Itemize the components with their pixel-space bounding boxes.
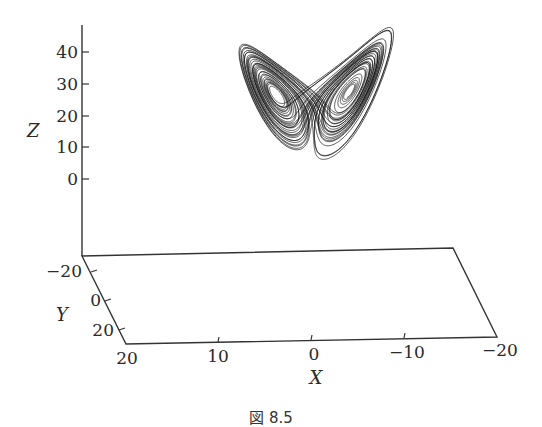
lorenz-attractor-figure: 40 30 20 10 0 Z −20 0 20 Y 20 10 0 −10 −…	[0, 0, 542, 427]
x-tick-label: −20	[482, 340, 518, 360]
y-tick-label: 0	[90, 290, 101, 310]
floor-plane	[82, 248, 497, 344]
x-axis-label: X	[308, 367, 324, 388]
lorenz-trajectory	[239, 28, 394, 160]
z-axis-tick-labels: 40 30 20 10 0	[56, 42, 78, 189]
y-axis-label: Y	[56, 304, 70, 325]
z-tick-label: 20	[56, 106, 78, 126]
x-axis-tick-labels: 20 10 0 −10 −20	[116, 340, 518, 368]
x-tick-label: −10	[389, 342, 425, 362]
figure-caption: 図 8.5	[249, 409, 293, 427]
z-axis-ticks	[82, 52, 89, 179]
z-tick-label: 0	[67, 169, 78, 189]
z-tick-label: 40	[56, 42, 78, 62]
z-tick-label: 10	[56, 137, 78, 157]
x-tick-label: 0	[309, 344, 320, 364]
y-tick-label: 20	[92, 320, 114, 340]
x-tick-label: 20	[116, 348, 138, 368]
x-tick-label: 10	[207, 346, 229, 366]
z-tick-label: 30	[56, 74, 78, 94]
y-tick-label: −20	[46, 261, 82, 281]
z-axis-label: Z	[26, 120, 40, 141]
